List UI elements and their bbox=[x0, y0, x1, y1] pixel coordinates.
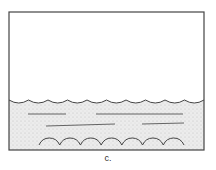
figure-caption: c. bbox=[0, 153, 216, 163]
water-body bbox=[9, 100, 204, 150]
water-container-diagram bbox=[0, 0, 216, 170]
